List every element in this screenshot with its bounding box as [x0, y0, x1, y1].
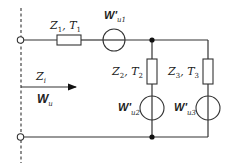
label-z1-t1: Z1, T1 — [49, 19, 81, 34]
label-z2-t2: Z2, T2 — [111, 65, 143, 80]
label-zi: Zi — [35, 70, 46, 85]
top-terminal — [17, 37, 23, 43]
resistor-z1 — [57, 35, 81, 45]
label-wu2: W'u2 — [118, 101, 141, 117]
resistor-z3 — [203, 59, 213, 84]
resistor-z2 — [147, 59, 157, 84]
bottom-junction-dot — [149, 134, 154, 139]
label-z3-t3: Z3, T3 — [167, 65, 199, 80]
top-junction-dot — [149, 37, 154, 42]
bottom-terminal — [17, 134, 23, 140]
label-wu3: W'u3 — [174, 101, 197, 117]
label-wu1: W'u1 — [104, 9, 126, 24]
circuit-diagram: Z1, T1 W'u1 Z2, T2 Z3, T3 W'u2 W'u3 Zi W… — [0, 0, 229, 167]
label-wu: Wu — [37, 92, 53, 108]
